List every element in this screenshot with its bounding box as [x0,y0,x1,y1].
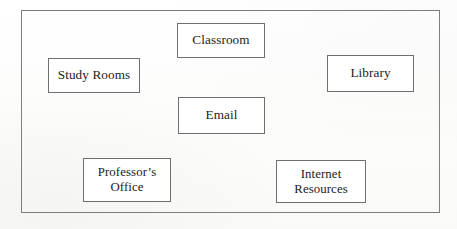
node-label-library: Library [346,66,394,80]
node-library[interactable]: Library [327,55,414,92]
node-professors-office[interactable]: Professor’s Office [83,158,171,202]
node-label-study-rooms: Study Rooms [54,68,135,82]
node-internet-resources[interactable]: Internet Resources [276,160,366,203]
node-label-email: Email [202,108,242,122]
node-email[interactable]: Email [178,97,265,134]
node-label-internet-resources: Internet Resources [290,167,352,196]
node-study-rooms[interactable]: Study Rooms [48,58,140,93]
node-label-classroom: Classroom [188,33,253,47]
diagram-canvas: ClassroomStudy RoomsLibraryEmailProfesso… [0,0,457,229]
node-classroom[interactable]: Classroom [177,23,265,58]
node-label-professors-office: Professor’s Office [94,165,160,194]
